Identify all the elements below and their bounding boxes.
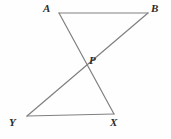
geometry-figure-svg xyxy=(0,0,171,139)
vertex-label-y: Y xyxy=(9,117,16,128)
vertex-label-b: B xyxy=(151,3,158,14)
vertex-label-a: A xyxy=(43,3,50,14)
segment-AX xyxy=(59,13,114,114)
vertex-label-p: P xyxy=(89,55,96,66)
vertex-label-x: X xyxy=(110,117,117,128)
segment-YX xyxy=(27,114,114,116)
segment-YB xyxy=(27,13,148,116)
geometry-figure-canvas: A B P Y X xyxy=(0,0,171,139)
